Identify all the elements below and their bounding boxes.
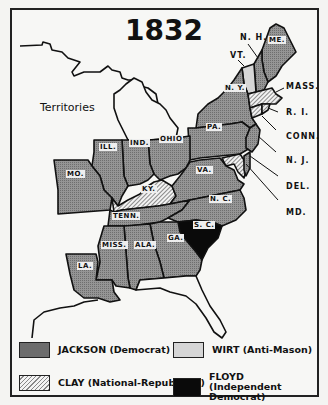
label-ri: R. I.	[286, 108, 309, 117]
leader-md	[246, 164, 278, 200]
leader-conn	[262, 116, 276, 130]
label-va: VA.	[196, 166, 213, 174]
label-md: MD.	[286, 208, 307, 217]
state-mississippi	[96, 226, 130, 288]
legend-swatch-jackson	[19, 342, 50, 358]
label-tenn: TENN.	[112, 212, 140, 220]
gulf-coast-line	[32, 300, 98, 338]
label-nh: N. H.	[240, 33, 267, 42]
label-pa: PA.	[206, 123, 222, 131]
legend-label-floyd: FLOYD (Independent Democrat)	[209, 372, 328, 402]
label-ny: N. Y.	[224, 84, 246, 92]
label-mo: MO.	[66, 170, 85, 178]
legend-jackson: JACKSON (Democrat)	[19, 342, 170, 358]
label-vt: VT.	[230, 51, 246, 60]
legend-label-floyd-line2: (Independent Democrat)	[209, 382, 328, 402]
legend-wirt: WIRT (Anti-Mason)	[173, 342, 312, 358]
label-mass: MASS.	[286, 82, 319, 91]
leader-nj	[258, 136, 276, 152]
label-del: DEL.	[286, 182, 310, 191]
label-ill: ILL.	[99, 143, 117, 151]
label-nj: N. J.	[286, 156, 310, 165]
label-me: ME.	[268, 36, 286, 44]
label-ala: ALA.	[134, 241, 156, 249]
legend-swatch-floyd	[173, 378, 201, 397]
label-ind: IND.	[129, 139, 150, 147]
legend-floyd: FLOYD (Independent Democrat)	[173, 372, 328, 402]
label-miss: MISS.	[101, 241, 128, 249]
leader-vt	[238, 60, 244, 66]
label-ga: GA.	[167, 234, 184, 242]
legend-swatch-clay	[19, 375, 50, 391]
leader-ri	[268, 108, 278, 112]
legend-label-jackson: JACKSON (Democrat)	[58, 345, 170, 355]
label-conn: CONN.	[286, 132, 320, 141]
label-nc: N. C.	[209, 195, 232, 203]
label-ky: KY.	[141, 185, 157, 193]
label-la: LA.	[77, 262, 93, 270]
legend-swatch-wirt	[173, 342, 204, 358]
label-ohio: OHIO	[159, 135, 183, 143]
territories-label: Territories	[40, 101, 95, 114]
label-sc: S. C.	[193, 221, 215, 229]
state-delaware	[244, 152, 250, 176]
state-florida	[136, 276, 226, 338]
state-rhode-island	[262, 104, 270, 114]
legend-label-wirt: WIRT (Anti-Mason)	[212, 345, 312, 355]
leader-mass	[276, 88, 284, 92]
